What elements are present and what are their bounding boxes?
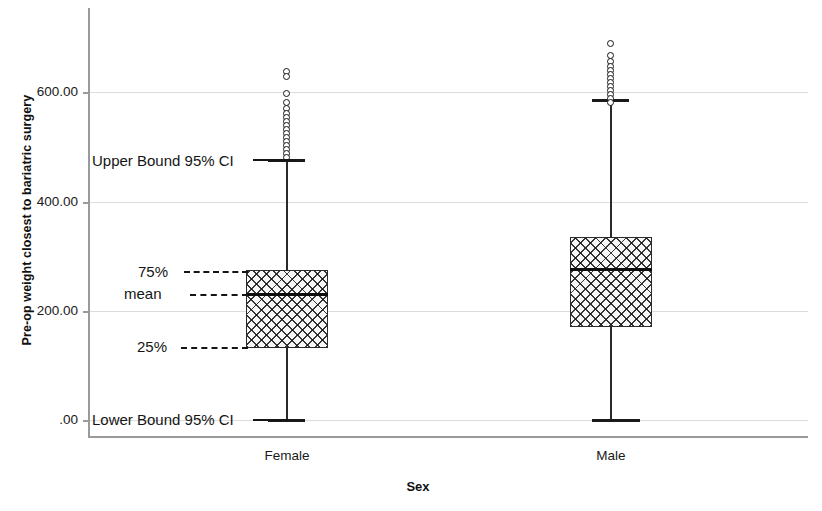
gridline-600 — [88, 92, 808, 93]
x-axis-title: Sex — [88, 479, 748, 494]
outlier-point — [283, 90, 290, 97]
annotation-label-lower-bound-ci: Lower Bound 95% CI — [92, 412, 234, 427]
median-line-male — [570, 268, 652, 271]
outlier-point — [607, 40, 614, 47]
annotation-leader-q3 — [184, 271, 248, 273]
annotation-label-q1: 25% — [137, 339, 167, 354]
whisker-lower-female — [286, 347, 288, 421]
y-tick-mark-200 — [83, 311, 88, 313]
x-axis-line — [88, 436, 808, 438]
gridline-200 — [88, 311, 808, 312]
whisker-upper-female — [286, 160, 288, 270]
box-plot-figure: Pre-op weight closest to bariatric surge… — [0, 0, 822, 511]
y-tick-mark-400 — [83, 202, 88, 204]
annotation-leader-lower-bound-ci — [253, 419, 289, 421]
gridline-400 — [88, 202, 808, 203]
annotation-label-mean: mean — [124, 286, 162, 301]
x-tick-label-male: Male — [561, 448, 661, 463]
outlier-point — [283, 73, 290, 80]
annotation-label-upper-bound-ci: Upper Bound 95% CI — [92, 153, 234, 168]
y-tick-mark-600 — [83, 92, 88, 94]
y-tick-label-400: 400.00 — [32, 194, 78, 209]
outlier-point — [607, 99, 614, 106]
box-male — [570, 237, 652, 327]
y-axis-line — [88, 8, 90, 437]
median-line-female — [246, 293, 328, 296]
y-axis-title: Pre-op weight closest to bariatric surge… — [14, 0, 40, 440]
annotation-label-q3: 75% — [138, 264, 168, 279]
y-tick-mark-0 — [83, 420, 88, 422]
whisker-lower-male — [610, 327, 612, 421]
y-tick-label-200: 200.00 — [32, 303, 78, 318]
whisker-upper-male — [610, 100, 612, 237]
x-tick-label-female: Female — [237, 448, 337, 463]
annotation-leader-mean — [190, 294, 248, 296]
annotation-leader-q1 — [181, 347, 248, 349]
box-female — [246, 270, 328, 348]
annotation-leader-upper-bound-ci — [253, 159, 293, 161]
whisker-cap-lower-male — [592, 419, 640, 422]
y-tick-label-0: .00 — [32, 412, 78, 427]
y-tick-label-600: 600.00 — [32, 84, 78, 99]
